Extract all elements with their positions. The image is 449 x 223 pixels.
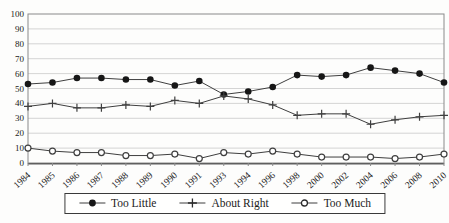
x-tick-label: 1994 [232, 170, 253, 190]
data-point-filled-circle [49, 79, 56, 86]
chart-page: 0102030405060708090100198419851986198719… [0, 0, 449, 223]
data-point-filled-circle [123, 76, 130, 83]
data-point-filled-circle [392, 67, 399, 74]
legend-label-too-much: Too Much [324, 197, 371, 209]
data-point-plus [416, 113, 424, 121]
legend-item-about-right: About Right [178, 197, 268, 209]
data-point-plus [122, 101, 130, 109]
legend-item-too-little: Too Little [78, 197, 157, 209]
data-point-open-circle [49, 148, 55, 154]
data-point-plus [342, 110, 350, 118]
data-point-open-circle [98, 150, 104, 156]
data-point-open-circle [294, 151, 300, 157]
y-tick-label: 0 [20, 158, 25, 168]
data-point-plus [367, 120, 375, 128]
x-tick-label: 2006 [379, 170, 400, 190]
data-point-open-circle [196, 156, 202, 162]
data-point-plus [73, 104, 81, 112]
data-point-filled-circle [441, 79, 448, 86]
x-tick-label: 1993 [207, 170, 228, 190]
data-point-open-circle [221, 150, 227, 156]
data-point-plus [391, 116, 399, 124]
series-line-too-little [28, 68, 444, 95]
y-tick-label: 20 [15, 128, 25, 138]
data-point-plus [195, 99, 203, 107]
x-tick-label: 2010 [428, 170, 449, 190]
data-point-filled-circle [294, 72, 301, 79]
data-point-open-circle [172, 151, 178, 157]
data-point-filled-circle [25, 81, 32, 88]
data-point-plus [318, 110, 326, 118]
open-circle-marker-icon [291, 198, 319, 208]
data-point-open-circle [123, 153, 129, 159]
data-point-open-circle [392, 156, 398, 162]
legend-item-too-much: Too Much [291, 197, 371, 209]
data-point-open-circle [147, 153, 153, 159]
data-point-plus [269, 101, 277, 109]
x-tick-label: 1989 [134, 170, 155, 190]
legend-label-too-little: Too Little [111, 197, 157, 209]
y-tick-label: 60 [15, 69, 25, 79]
y-tick-label: 40 [15, 98, 25, 108]
data-point-filled-circle [269, 84, 276, 91]
x-tick-label: 2002 [330, 170, 351, 190]
data-point-open-circle [25, 145, 31, 151]
x-tick-label: 2008 [403, 170, 424, 190]
y-tick-label: 90 [15, 24, 25, 34]
data-point-filled-circle [416, 70, 423, 77]
series-line-too-much [28, 148, 444, 158]
data-point-open-circle [368, 154, 374, 160]
data-point-filled-circle [147, 76, 154, 83]
plus-marker-icon [178, 197, 206, 209]
x-tick-label: 1998 [281, 170, 302, 190]
y-tick-label: 10 [15, 143, 25, 153]
data-point-open-circle [343, 154, 349, 160]
x-tick-label: 1991 [183, 170, 204, 190]
x-tick-label: 1990 [158, 170, 179, 190]
data-point-open-circle [441, 151, 447, 157]
data-point-filled-circle [98, 75, 105, 82]
data-point-filled-circle [172, 82, 179, 89]
data-point-plus [97, 104, 105, 112]
x-tick-label: 1986 [60, 170, 81, 190]
x-tick-label: 1985 [36, 170, 57, 190]
data-point-open-circle [245, 151, 251, 157]
x-tick-label: 2000 [305, 170, 326, 190]
data-point-filled-circle [245, 88, 252, 95]
x-tick-label: 1987 [85, 170, 106, 190]
data-point-open-circle [74, 150, 80, 156]
data-point-open-circle [417, 154, 423, 160]
y-tick-label: 50 [15, 84, 25, 94]
y-tick-label: 100 [11, 9, 25, 19]
data-point-filled-circle [74, 75, 81, 82]
y-tick-label: 70 [15, 54, 25, 64]
data-point-filled-circle [367, 64, 374, 71]
y-tick-label: 30 [15, 113, 25, 123]
data-point-plus [244, 95, 252, 103]
legend-label-about-right: About Right [211, 197, 268, 209]
series-line-about-right [28, 96, 444, 124]
chart-legend: Too Little About Right Too Much [64, 193, 385, 214]
data-point-filled-circle [196, 78, 203, 85]
x-tick-label: 2004 [354, 170, 375, 190]
filled-circle-marker-icon [78, 198, 106, 208]
data-point-open-circle [319, 154, 325, 160]
data-point-plus [48, 99, 56, 107]
line-chart: 0102030405060708090100198419851986198719… [0, 0, 449, 223]
y-tick-label: 80 [15, 39, 25, 49]
x-tick-label: 1984 [12, 170, 33, 190]
x-tick-label: 1996 [256, 170, 277, 190]
data-point-filled-circle [318, 73, 325, 80]
data-point-open-circle [270, 148, 276, 154]
x-tick-label: 1988 [109, 170, 130, 190]
data-point-filled-circle [343, 72, 350, 79]
